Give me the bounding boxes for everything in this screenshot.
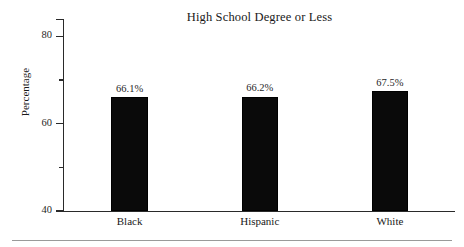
x-axis-category-label: Black bbox=[80, 215, 180, 227]
bar-black[interactable] bbox=[111, 97, 148, 211]
bar-value-label: 66.2% bbox=[220, 82, 300, 93]
x-axis-category-label: White bbox=[340, 215, 440, 227]
bar-hispanic[interactable] bbox=[242, 97, 279, 211]
footer-divider bbox=[12, 240, 452, 241]
y-tick-minor bbox=[59, 79, 65, 80]
chart-title: High School Degree or Less bbox=[64, 10, 455, 25]
y-tick-major bbox=[56, 210, 64, 211]
y-axis-title: Percentage bbox=[19, 54, 31, 130]
bar-chart-figure: High School Degree or Less 806040 Percen… bbox=[0, 0, 464, 247]
bar-value-label: 67.5% bbox=[350, 77, 430, 88]
y-tick-minor bbox=[59, 167, 65, 168]
y-tick-label: 80 bbox=[18, 29, 52, 40]
y-tick-label: 40 bbox=[18, 204, 52, 215]
bar-value-label: 66.1% bbox=[90, 83, 170, 94]
x-axis-category-label: Hispanic bbox=[210, 215, 310, 227]
y-axis-line bbox=[63, 19, 64, 212]
y-tick-major bbox=[56, 123, 64, 124]
bar-white[interactable] bbox=[372, 91, 409, 211]
y-tick-major bbox=[56, 36, 64, 37]
y-axis-top-cap-tick bbox=[56, 19, 64, 20]
